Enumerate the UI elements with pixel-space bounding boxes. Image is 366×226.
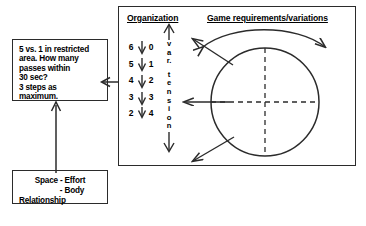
organization-digits-right: 0 1 2 3 4	[146, 39, 156, 122]
relationship-box: Space - Effort - Body Relationship	[12, 170, 108, 204]
task-description-box: 5 vs. 1 in restricted area. How many pas…	[12, 39, 108, 101]
relationship-line: - Body	[17, 186, 103, 196]
organization-title: Organization	[127, 13, 178, 23]
rotation-arc-icon	[203, 30, 325, 47]
vtext-char: n	[163, 122, 175, 131]
relationship-line: Space - Effort	[17, 176, 103, 186]
direction-arrow-downleft	[193, 137, 234, 161]
digit: 0	[146, 39, 156, 56]
diagram-canvas: 5 vs. 1 in restricted area. How many pas…	[0, 0, 366, 226]
digit: 3	[146, 89, 156, 106]
vtext-char: r.	[163, 57, 175, 66]
digit: 4	[146, 105, 156, 122]
digit: 2	[146, 72, 156, 89]
task-line: passes within	[19, 64, 101, 73]
tension-up-arrow-icon	[161, 23, 177, 40]
direction-arrow-upleft	[193, 39, 233, 65]
game-requirements-title: Game requirements/variations	[207, 13, 328, 23]
game-variation-circle-diagram	[189, 23, 354, 165]
task-line: 30 sec?	[19, 73, 101, 82]
task-line: 5 vs. 1 in restricted	[19, 45, 101, 54]
task-line: area. How many	[19, 54, 101, 63]
relationship-line: Relationship	[17, 196, 103, 206]
variable-tension-label: v a r. t e n s i o n	[163, 40, 175, 131]
connector-up-arrow	[48, 99, 64, 173]
digit: 1	[146, 56, 156, 73]
main-frame: Organization Game requirements/variation…	[118, 6, 356, 166]
task-line: 3 steps as	[19, 83, 101, 92]
tension-down-arrow-icon	[161, 131, 177, 153]
